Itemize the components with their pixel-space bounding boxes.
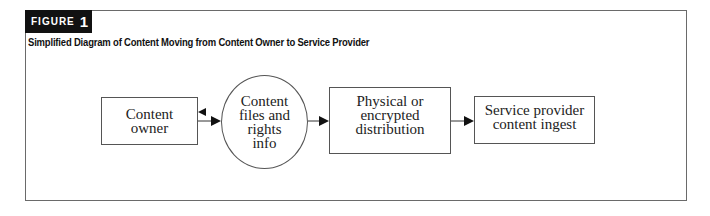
diagram-arrows — [0, 0, 710, 216]
arrow-owner-to-files — [198, 116, 221, 126]
arrow-files-to-owner — [198, 108, 206, 116]
arrow-files-to-distribution — [308, 116, 329, 126]
arrow-distribution-to-ingest — [451, 116, 474, 126]
